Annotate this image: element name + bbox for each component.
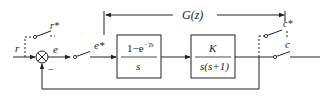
input-label: r	[15, 42, 20, 54]
error-label: e	[53, 43, 58, 55]
feedback-sign: −	[48, 64, 54, 75]
r-sampler-switch	[36, 31, 51, 37]
plant-numerator: K	[208, 42, 217, 54]
e-sampler-pivot	[73, 55, 76, 58]
summing-junction	[36, 51, 48, 63]
r-star-label: r*	[50, 20, 59, 31]
e-sampler-switch	[76, 52, 90, 57]
sampled-control-system-diagram: G(z) r r* − e e* 1−e−Ts s K s(s+1)	[0, 0, 333, 96]
c-sampler-pivot-top	[264, 34, 267, 37]
e-star-label: e*	[94, 39, 105, 51]
c-star-label: c*	[283, 18, 292, 29]
zoh-numerator: 1−e	[127, 42, 144, 54]
plant-denominator: s(s+1)	[200, 60, 229, 73]
c-label: c	[285, 38, 290, 50]
zoh-denominator: s	[136, 60, 140, 72]
c-sampler-pivot	[273, 55, 276, 58]
c-star-sampler-switch	[267, 30, 282, 36]
gz-label: G(z)	[182, 8, 203, 22]
r-sampler-pivot	[33, 35, 36, 38]
zoh-exponent: −Ts	[144, 41, 154, 48]
c-sampler-switch	[276, 52, 290, 57]
